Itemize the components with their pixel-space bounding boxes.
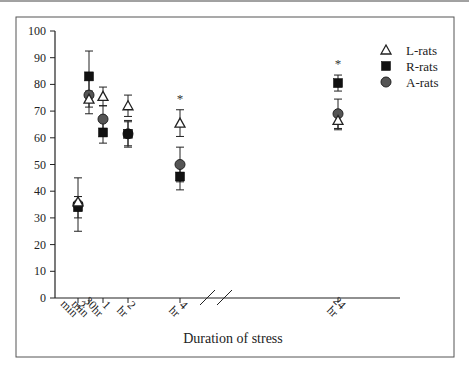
y-tick-label: 70: [34, 104, 46, 118]
x-axis-title: Duration of stress: [183, 331, 283, 346]
data-point-r-rats: [124, 129, 133, 138]
data-point-l-rats: [175, 118, 185, 127]
data-point-a-rats: [98, 114, 108, 124]
y-tick-label: 100: [28, 24, 46, 38]
x-tick-label: 4hr: [166, 295, 191, 320]
data-point-r-rats: [99, 128, 108, 137]
legend-item: A-rats: [381, 75, 439, 90]
y-tick-label: 50: [34, 158, 46, 172]
data-point-l-rats: [98, 91, 108, 100]
x-tick-label: 2hr: [114, 295, 139, 320]
axes: 01020304050607080901002min30min1hr2hr4hr…: [28, 24, 400, 320]
legend-marker-l-rats: [381, 45, 391, 54]
y-tick-label: 80: [34, 77, 46, 91]
data-point-r-rats: [334, 79, 343, 88]
legend: L-ratsR-ratsA-rats: [381, 43, 439, 90]
legend-marker-a-rats: [381, 77, 391, 87]
data-point-l-rats: [123, 101, 133, 110]
y-tick-label: 10: [34, 264, 46, 278]
y-tick-label: 90: [34, 51, 46, 65]
significance-asterisk: *: [177, 91, 184, 106]
y-tick-label: 40: [34, 184, 46, 198]
y-tick-label: 0: [40, 291, 46, 305]
chart: 01020304050607080901002min30min1hr2hr4hr…: [0, 0, 469, 373]
legend-item: L-rats: [381, 43, 437, 58]
data-point-a-rats: [175, 160, 185, 170]
data-point-r-rats: [176, 172, 185, 181]
significance-asterisk: *: [335, 56, 342, 71]
legend-marker-r-rats: [382, 62, 391, 71]
marks: **: [73, 51, 343, 231]
legend-label: L-rats: [406, 43, 437, 58]
legend-item: R-rats: [382, 59, 438, 74]
data-point-r-rats: [85, 72, 94, 81]
y-tick-label: 60: [34, 131, 46, 145]
legend-label: A-rats: [406, 75, 439, 90]
y-tick-label: 30: [34, 211, 46, 225]
legend-label: R-rats: [406, 59, 438, 74]
y-tick-label: 20: [34, 238, 46, 252]
